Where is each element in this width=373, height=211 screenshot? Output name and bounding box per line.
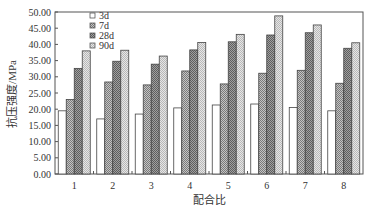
bar-28d-4 — [190, 50, 198, 174]
bar-3d-6 — [251, 104, 259, 174]
bar-28d-7 — [305, 33, 313, 174]
bar-7d-8 — [336, 83, 344, 174]
bar-3d-3 — [135, 114, 143, 174]
bar-7d-3 — [143, 85, 151, 174]
x-tick-label: 3 — [149, 180, 154, 191]
bar-90d-5 — [236, 34, 244, 174]
bar-7d-4 — [182, 71, 190, 174]
y-tick-label: 5.00 — [34, 152, 52, 163]
x-tick-label: 4 — [187, 180, 192, 191]
bar-28d-5 — [228, 42, 236, 174]
bar-3d-7 — [289, 108, 297, 174]
y-tick-label: 10.00 — [29, 136, 52, 147]
bar-chart: 0.005.0010.0015.0020.0025.0030.0035.0040… — [0, 0, 373, 211]
bar-90d-2 — [121, 50, 129, 174]
y-tick-label: 40.00 — [29, 39, 52, 50]
bar-7d-2 — [105, 82, 113, 174]
bar-3d-1 — [58, 111, 66, 174]
bar-28d-3 — [151, 64, 159, 174]
bar-90d-3 — [159, 56, 167, 174]
x-tick-label: 5 — [226, 180, 231, 191]
bar-90d-7 — [313, 25, 321, 174]
bar-7d-6 — [259, 73, 267, 174]
bar-7d-7 — [297, 70, 305, 174]
bar-3d-5 — [212, 105, 220, 174]
bar-7d-5 — [220, 84, 228, 174]
legend-swatch-28d — [90, 33, 95, 38]
x-tick-label: 2 — [110, 180, 115, 191]
bar-3d-4 — [174, 108, 182, 174]
bar-3d-2 — [97, 119, 105, 174]
y-axis: 0.005.0010.0015.0020.0025.0030.0035.0040… — [29, 7, 59, 180]
x-tick-label: 7 — [303, 180, 308, 191]
legend-swatch-3d — [90, 13, 95, 18]
x-tick-label: 6 — [264, 180, 269, 191]
x-axis-label: 配合比 — [193, 193, 226, 206]
bar-28d-6 — [267, 35, 275, 174]
y-axis-label: 抗压强度/MPa — [5, 60, 18, 128]
y-tick-label: 35.00 — [29, 55, 52, 66]
bar-3d-8 — [328, 111, 336, 174]
bar-7d-1 — [66, 99, 74, 174]
bar-90d-8 — [352, 43, 360, 174]
x-tick-label: 8 — [341, 180, 346, 191]
legend-label-90d: 90d — [99, 40, 114, 51]
bar-28d-8 — [344, 48, 352, 174]
y-tick-label: 45.00 — [29, 23, 52, 34]
y-tick-label: 15.00 — [29, 120, 52, 131]
bar-90d-4 — [198, 42, 206, 174]
bar-28d-2 — [113, 61, 121, 174]
y-tick-label: 30.00 — [29, 71, 52, 82]
legend-swatch-7d — [90, 23, 95, 28]
y-tick-label: 20.00 — [29, 104, 52, 115]
y-tick-label: 25.00 — [29, 88, 52, 99]
x-tick-label: 1 — [72, 180, 77, 191]
legend: 3d7d28d90d — [90, 10, 114, 51]
y-tick-label: 50.00 — [29, 7, 52, 18]
legend-swatch-90d — [90, 43, 95, 48]
bar-90d-6 — [275, 16, 283, 174]
bar-90d-1 — [82, 51, 90, 174]
bar-28d-1 — [74, 68, 82, 174]
y-tick-label: 0.00 — [34, 169, 52, 180]
